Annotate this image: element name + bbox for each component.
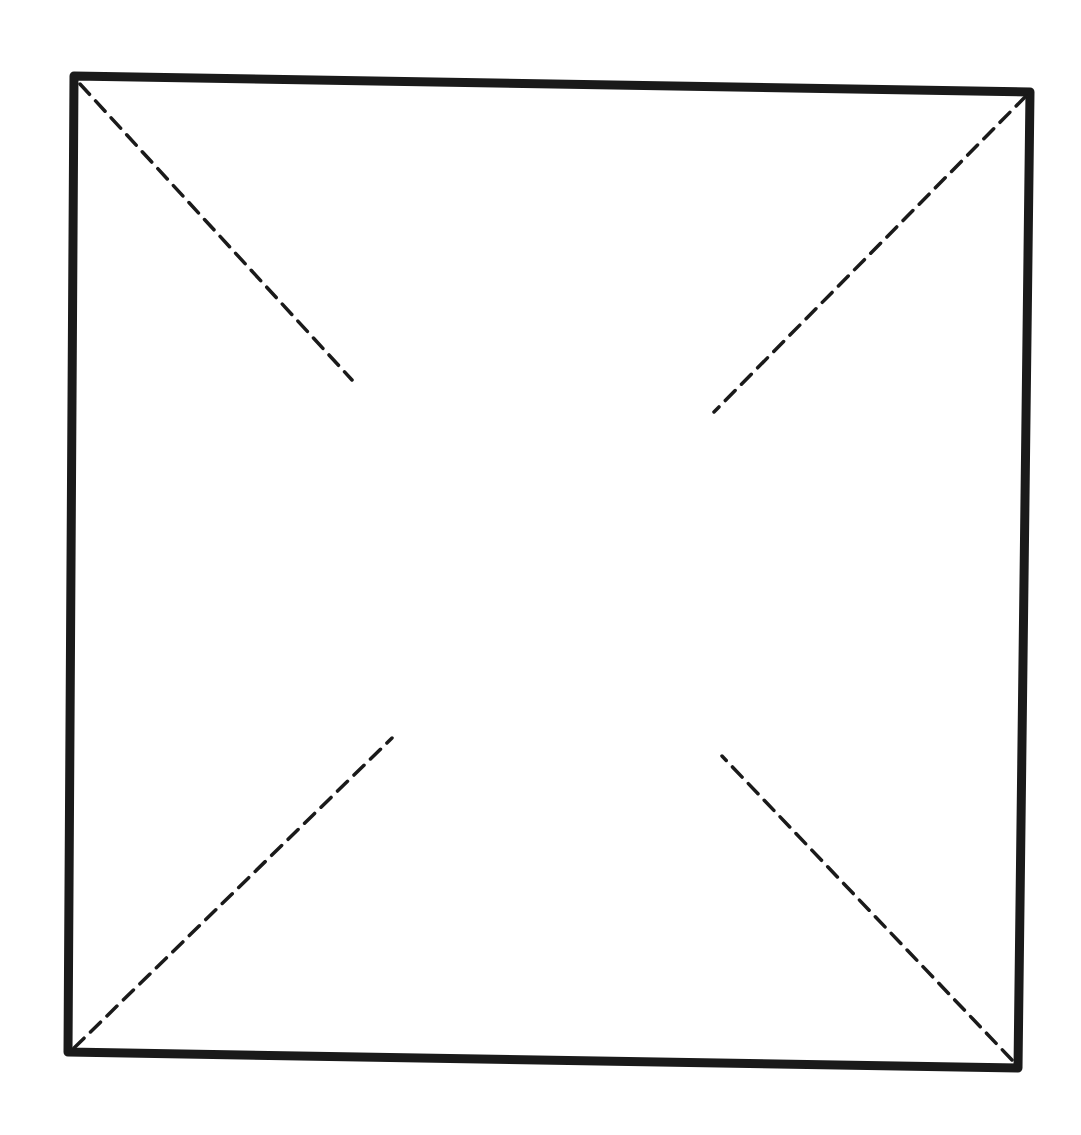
diagonal-top-left [80, 84, 352, 380]
diagram-canvas [0, 0, 1081, 1135]
dashed-diagonals [74, 84, 1026, 1060]
diagonal-top-right [714, 96, 1026, 412]
diagonal-bottom-left [74, 738, 392, 1048]
outer-square [68, 76, 1030, 1068]
diagonal-bottom-right [722, 756, 1012, 1060]
